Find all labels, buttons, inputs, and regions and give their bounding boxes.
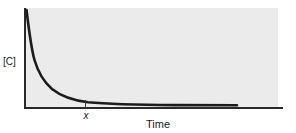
decay-curve-figure: x [C] Time (0, 0, 296, 133)
concentration-decay-curve (27, 10, 238, 105)
curve-layer (0, 0, 296, 133)
x-axis-tick-x (85, 100, 86, 108)
x-axis-title: Time (0, 118, 296, 131)
x-axis-title-text: Time (146, 118, 170, 130)
y-axis-title: [C] (3, 56, 16, 68)
